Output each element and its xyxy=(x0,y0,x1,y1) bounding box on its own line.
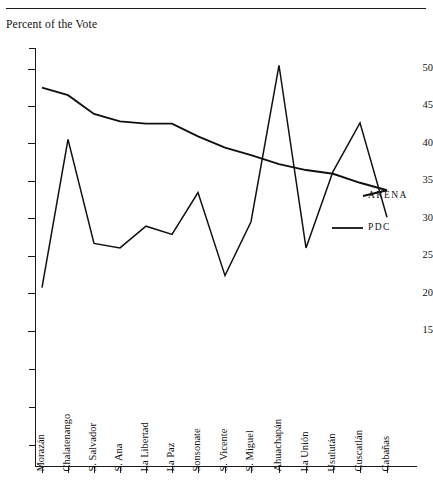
series-line-arena xyxy=(42,88,387,196)
series-plot-area xyxy=(0,0,433,486)
series-label-pdc: PDC xyxy=(368,222,391,232)
chart-figure: Percent of the Vote 1520253035404550 Mor… xyxy=(0,0,433,486)
series-line-pdc xyxy=(42,65,387,287)
series-label-arena: ARENA xyxy=(368,190,408,200)
